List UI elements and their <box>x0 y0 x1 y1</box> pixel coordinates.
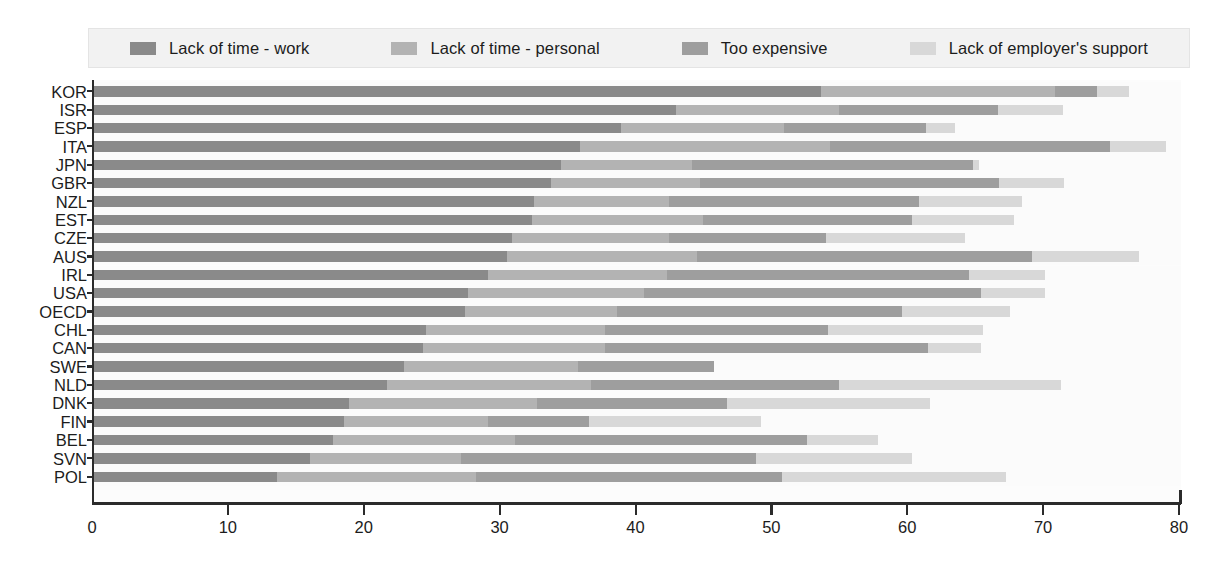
bar-segment[interactable] <box>697 251 1031 261</box>
bar-segment[interactable] <box>476 472 782 482</box>
bar-segment[interactable] <box>821 86 1055 96</box>
bar-segment[interactable] <box>578 361 714 371</box>
bar-segment[interactable] <box>94 398 349 408</box>
bar-segment[interactable] <box>426 325 605 335</box>
bar-segment[interactable] <box>94 215 532 225</box>
bar-segment[interactable] <box>461 453 756 463</box>
stacked-bar[interactable] <box>94 343 981 353</box>
bar-segment[interactable] <box>551 178 700 188</box>
bar-segment[interactable] <box>830 141 1110 151</box>
bar-segment[interactable] <box>826 233 965 243</box>
bar-segment[interactable] <box>617 306 902 316</box>
bar-segment[interactable] <box>912 215 1014 225</box>
bar-segment[interactable] <box>465 306 617 316</box>
bar-segment[interactable] <box>94 270 488 280</box>
bar-segment[interactable] <box>784 123 925 133</box>
stacked-bar[interactable] <box>94 270 1045 280</box>
bar-segment[interactable] <box>1110 141 1166 151</box>
bar-segment[interactable] <box>94 141 580 151</box>
bar-segment[interactable] <box>333 435 515 445</box>
stacked-bar[interactable] <box>94 361 714 371</box>
bar-segment[interactable] <box>828 325 983 335</box>
bar-segment[interactable] <box>94 361 404 371</box>
stacked-bar[interactable] <box>94 105 1063 115</box>
bar-segment[interactable] <box>387 380 591 390</box>
bar-segment[interactable] <box>94 453 310 463</box>
bar-segment[interactable] <box>676 105 839 115</box>
bar-segment[interactable] <box>94 343 423 353</box>
bar-segment[interactable] <box>94 288 468 298</box>
bar-segment[interactable] <box>277 472 475 482</box>
bar-segment[interactable] <box>756 453 912 463</box>
stacked-bar[interactable] <box>94 380 1061 390</box>
stacked-bar[interactable] <box>94 325 983 335</box>
bar-segment[interactable] <box>589 416 762 426</box>
bar-segment[interactable] <box>488 270 667 280</box>
stacked-bar[interactable] <box>94 141 1166 151</box>
stacked-bar[interactable] <box>94 453 912 463</box>
bar-segment[interactable] <box>94 472 277 482</box>
bar-segment[interactable] <box>969 270 1045 280</box>
bar-segment[interactable] <box>94 86 821 96</box>
bar-segment[interactable] <box>94 178 551 188</box>
bar-segment[interactable] <box>839 380 1062 390</box>
stacked-bar[interactable] <box>94 288 1045 298</box>
bar-segment[interactable] <box>902 306 1009 316</box>
bar-segment[interactable] <box>998 105 1063 115</box>
bar-segment[interactable] <box>807 435 878 445</box>
bar-segment[interactable] <box>94 325 426 335</box>
bar-segment[interactable] <box>692 160 973 170</box>
bar-segment[interactable] <box>999 178 1064 188</box>
bar-segment[interactable] <box>981 288 1045 298</box>
bar-segment[interactable] <box>928 343 981 353</box>
bar-segment[interactable] <box>94 251 507 261</box>
bar-segment[interactable] <box>94 416 344 426</box>
bar-segment[interactable] <box>703 215 912 225</box>
bar-segment[interactable] <box>621 123 784 133</box>
bar-segment[interactable] <box>839 105 998 115</box>
bar-segment[interactable] <box>973 160 978 170</box>
bar-segment[interactable] <box>404 361 578 371</box>
bar-segment[interactable] <box>782 472 1006 482</box>
bar-segment[interactable] <box>667 270 969 280</box>
stacked-bar[interactable] <box>94 178 1064 188</box>
stacked-bar[interactable] <box>94 86 1129 96</box>
bar-segment[interactable] <box>515 435 807 445</box>
bar-segment[interactable] <box>605 343 928 353</box>
bar-segment[interactable] <box>94 105 676 115</box>
stacked-bar[interactable] <box>94 196 1022 206</box>
bar-segment[interactable] <box>94 196 534 206</box>
legend-entry[interactable]: Too expensive <box>682 39 828 58</box>
bar-segment[interactable] <box>700 178 999 188</box>
legend-entry[interactable]: Lack of time - personal <box>391 39 599 58</box>
bar-segment[interactable] <box>580 141 830 151</box>
bar-segment[interactable] <box>727 398 929 408</box>
stacked-bar[interactable] <box>94 233 965 243</box>
bar-segment[interactable] <box>669 233 827 243</box>
bar-segment[interactable] <box>644 288 981 298</box>
bar-segment[interactable] <box>591 380 838 390</box>
bar-segment[interactable] <box>534 196 669 206</box>
bar-segment[interactable] <box>423 343 605 353</box>
legend-entry[interactable]: Lack of employer's support <box>910 39 1148 58</box>
bar-segment[interactable] <box>919 196 1022 206</box>
bar-segment[interactable] <box>94 306 465 316</box>
stacked-bar[interactable] <box>94 398 930 408</box>
stacked-bar[interactable] <box>94 472 1006 482</box>
stacked-bar[interactable] <box>94 251 1139 261</box>
legend-entry[interactable]: Lack of time - work <box>130 39 309 58</box>
bar-segment[interactable] <box>507 251 697 261</box>
bar-segment[interactable] <box>349 398 537 408</box>
bar-segment[interactable] <box>94 233 512 243</box>
stacked-bar[interactable] <box>94 306 1010 316</box>
bar-segment[interactable] <box>537 398 727 408</box>
bar-segment[interactable] <box>488 416 589 426</box>
bar-segment[interactable] <box>1097 86 1130 96</box>
stacked-bar[interactable] <box>94 215 1014 225</box>
bar-segment[interactable] <box>94 123 621 133</box>
bar-segment[interactable] <box>561 160 691 170</box>
bar-segment[interactable] <box>926 123 956 133</box>
stacked-bar[interactable] <box>94 123 955 133</box>
bar-segment[interactable] <box>94 160 561 170</box>
bar-segment[interactable] <box>1032 251 1139 261</box>
